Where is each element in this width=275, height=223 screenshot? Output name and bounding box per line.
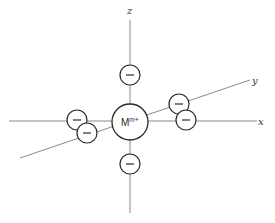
ligand-plus-z bbox=[120, 65, 140, 85]
metal-symbol: M bbox=[121, 117, 129, 128]
ligand-plus-x bbox=[176, 110, 196, 130]
y-axis-label: y bbox=[251, 75, 258, 86]
ligand-minus-z bbox=[120, 154, 140, 174]
x-axis-label: x bbox=[258, 116, 264, 127]
metal-charge: m+ bbox=[129, 116, 138, 123]
ligand-minus-y bbox=[77, 123, 97, 143]
z-axis-label: z bbox=[126, 5, 133, 16]
octahedral-complex-diagram: z x y Mm+ bbox=[0, 0, 275, 223]
metal-ion: Mm+ bbox=[112, 104, 148, 140]
